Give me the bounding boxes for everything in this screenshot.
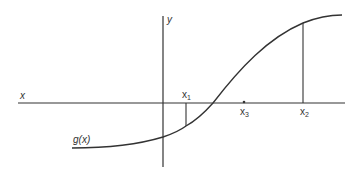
x-axis-label: x xyxy=(19,90,26,101)
x1-label: x1 xyxy=(182,89,191,101)
x3-point-marker xyxy=(243,101,246,104)
y-axis-label: y xyxy=(166,14,173,25)
curve-label: g(x) xyxy=(73,134,90,145)
curve-g xyxy=(72,15,342,148)
x2-label: x2 xyxy=(300,106,309,118)
function-graph: x y g(x) x1 x3 x2 xyxy=(0,0,362,176)
x3-label: x3 xyxy=(240,106,249,118)
